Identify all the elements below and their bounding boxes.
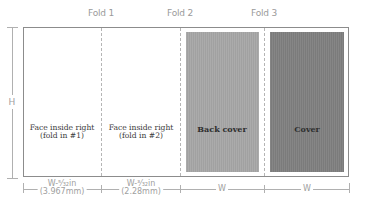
fold-1-line (101, 28, 102, 176)
width-label-panel-4: W (301, 185, 313, 193)
back-cover-label: Back cover (197, 124, 246, 134)
back-cover-panel (186, 32, 259, 172)
width-tick-1 (101, 185, 102, 193)
panel-face-inside-right-2: Face inside right (fold in #2) (109, 124, 174, 140)
fold-2-line (180, 28, 181, 176)
fold-1-label: Fold 1 (88, 8, 114, 18)
width-label-panel-1: W-⁵⁄₃₂in (3.967mm) (38, 180, 87, 196)
panel-1-subtitle: (fold in #1) (30, 132, 95, 140)
cover-panel (270, 32, 344, 172)
width-tick-0 (23, 183, 24, 193)
cover-label: Cover (294, 124, 320, 134)
panel-face-inside-right-1: Face inside right (fold in #1) (30, 124, 95, 140)
width-label-panel-2: W-³⁄₃₂in (2.28mm) (119, 180, 163, 196)
fold-3-line (264, 28, 265, 176)
fold-3-label: Fold 3 (251, 8, 277, 18)
fold-2-label: Fold 2 (167, 8, 193, 18)
width-label-1-metric: (3.967mm) (40, 188, 85, 196)
width-label-2-metric: (2.28mm) (121, 188, 161, 196)
panel-2-subtitle: (fold in #2) (109, 132, 174, 140)
width-tick-3 (264, 185, 265, 193)
height-dimension-label: H (9, 95, 16, 109)
height-dimension-bottom-tick (7, 178, 18, 179)
width-tick-2 (180, 185, 181, 193)
width-tick-4 (349, 183, 350, 193)
width-label-panel-3: W (216, 185, 228, 193)
height-dimension-top-tick (7, 27, 18, 28)
